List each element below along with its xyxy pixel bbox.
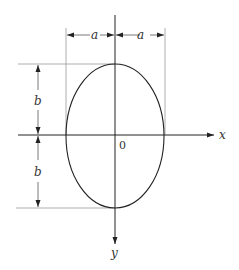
- label-a-right: a: [137, 28, 144, 42]
- label-a-left: a: [91, 28, 98, 42]
- label-b-top: b: [34, 94, 42, 108]
- x-axis-label: x: [219, 128, 226, 142]
- label-b-bottom: b: [34, 165, 42, 179]
- ellipse-diagram: a a b b 0 x y: [0, 0, 239, 270]
- y-axis-label: y: [110, 246, 118, 260]
- origin-label: 0: [119, 139, 126, 152]
